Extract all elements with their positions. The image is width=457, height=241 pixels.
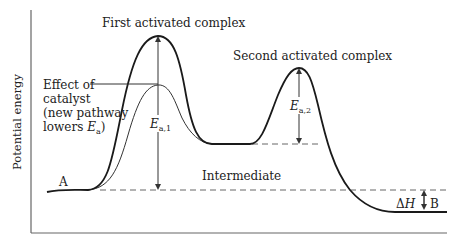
energy-profile-diagram: Potential energy Ea,1 Ea,2 ΔH First acti… [0, 0, 457, 241]
ea2-label: Ea,2 [289, 99, 311, 115]
second-activated-complex-label: Second activated complex [233, 49, 392, 63]
first-activated-complex-label: First activated complex [102, 16, 246, 30]
y-axis-label: Potential energy [10, 74, 24, 170]
ea1-label: Ea,1 [149, 117, 171, 133]
intermediate-label: Intermediate [202, 169, 281, 183]
reactant-label: A [58, 175, 68, 189]
delta-h-label: ΔH [396, 197, 416, 211]
product-label: B [430, 197, 439, 211]
